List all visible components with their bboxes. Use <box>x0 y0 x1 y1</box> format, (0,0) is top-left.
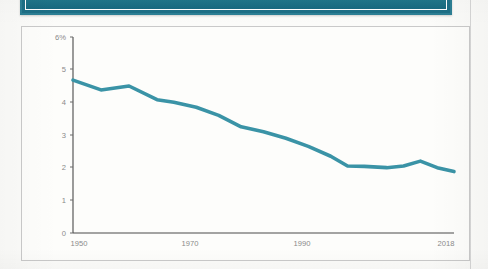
y-tick-labels: 6% 5 4 3 2 1 0 <box>55 33 66 238</box>
y-tick-label: 6% <box>55 33 66 42</box>
x-tick-labels: 1950 1970 1990 2018 <box>71 239 455 248</box>
top-banner <box>20 0 452 15</box>
x-tick-label: 1950 <box>71 239 88 248</box>
y-tick-label: 4 <box>62 98 66 107</box>
x-tick-label: 1970 <box>182 239 199 248</box>
chart-panel: 6% 5 4 3 2 1 0 1950 1970 1990 2018 <box>21 26 470 261</box>
y-tick-label: 0 <box>62 229 66 238</box>
data-series-line <box>73 80 454 171</box>
page-margin-rule <box>470 0 471 269</box>
scanned-page: 6% 5 4 3 2 1 0 1950 1970 1990 2018 <box>0 0 488 269</box>
line-chart: 6% 5 4 3 2 1 0 1950 1970 1990 2018 <box>22 27 471 262</box>
x-tick-label: 1990 <box>294 239 311 248</box>
x-tick-label: 2018 <box>438 239 455 248</box>
y-tick-label: 3 <box>62 131 66 140</box>
y-tick-label: 5 <box>62 65 66 74</box>
y-tick-label: 2 <box>62 163 66 172</box>
banner-inner-border <box>25 0 447 10</box>
banner-title <box>26 0 446 9</box>
y-tick-label: 1 <box>62 196 66 205</box>
